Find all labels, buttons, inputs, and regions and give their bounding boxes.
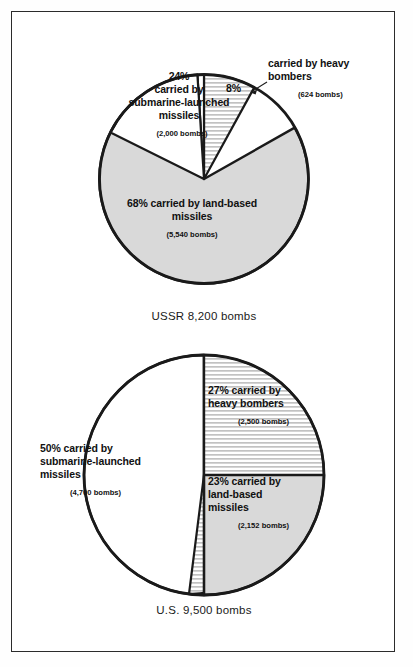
us-land-line3: missiles <box>208 501 249 513</box>
us-heavy-bombers-label: 27% carried by heavy bombers (2,500 bomb… <box>208 384 344 428</box>
ussr-heavy-bombers-callout: carried by heavy bombers (624 bombs) <box>268 57 394 101</box>
figure-page: USSR 8,200 bombs 24% carried by submarin… <box>0 0 413 667</box>
ussr-land-based-label: 68% carried by land-based missiles (5,54… <box>104 197 280 241</box>
us-sub-bombs: (4,700 bombs) <box>40 486 190 499</box>
us-heavy-line2: heavy bombers <box>208 397 284 409</box>
ussr-land-line2: missiles <box>172 210 213 222</box>
us-land-line2: land-based <box>208 488 262 500</box>
us-land-line1: 23% carried by <box>208 475 281 487</box>
ussr-submarine-label: 24% carried by submarine-launched missil… <box>120 70 238 140</box>
us-heavy-line1: 27% carried by <box>208 384 281 396</box>
ussr-heavy-bombers-percent: 8% <box>226 82 260 95</box>
us-sub-line3: missiles <box>40 468 81 480</box>
ussr-land-bombs: (5,540 bombs) <box>104 228 280 241</box>
us-sub-line1: 50% carried by <box>40 442 113 454</box>
us-pie-chart-block: U.S. 9,500 bombs 27% carried by heavy bo… <box>12 342 396 642</box>
us-submarine-label: 50% carried by submarine-launched missil… <box>40 442 190 499</box>
ussr-heavy-bombers-bombs: (624 bombs) <box>268 88 394 101</box>
ussr-submarine-percent: 24% <box>169 70 190 82</box>
ussr-caption: USSR 8,200 bombs <box>12 310 396 322</box>
ussr-submarine-line2: submarine-launched <box>129 96 230 108</box>
us-land-based-label: 23% carried by land-based missiles (2,15… <box>208 475 332 532</box>
ussr-land-line1: 68% carried by land-based <box>127 197 257 209</box>
us-sub-line2: submarine-launched <box>40 455 141 467</box>
ussr-submarine-line3: missiles <box>159 109 200 121</box>
us-heavy-bombs: (2,500 bombs) <box>208 415 344 428</box>
ussr-pie-chart-block: USSR 8,200 bombs 24% carried by submarin… <box>12 42 396 342</box>
us-land-bombs: (2,152 bombs) <box>208 519 332 532</box>
us-caption: U.S. 9,500 bombs <box>12 604 396 616</box>
ussr-heavy-bombers-text: carried by heavy bombers <box>268 57 349 82</box>
ussr-submarine-line1: carried by <box>154 83 203 95</box>
figure-border-frame: USSR 8,200 bombs 24% carried by submarin… <box>11 11 395 652</box>
ussr-submarine-bombs: (2,000 bombs) <box>126 127 238 140</box>
